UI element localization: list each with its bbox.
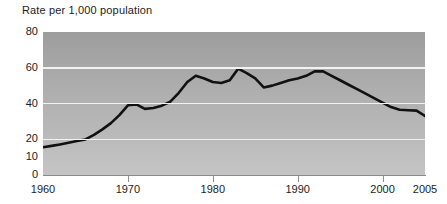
x-tick-2000 [383,176,384,182]
y-axis-labels: 80604020100 [0,0,38,204]
y-tick-label-80: 80 [26,25,38,37]
y-tick-label-20: 20 [26,132,38,144]
x-tick-label-1980: 1980 [201,183,225,195]
chart-title: Rate per 1,000 population [22,4,152,16]
gridline-20 [43,139,425,141]
x-axis-line [43,175,426,176]
gridline-40 [43,103,425,105]
y-tick-label-10: 10 [26,150,38,162]
chart-container: Rate per 1,000 population 80604020100 19… [0,0,447,204]
plot-area [43,32,425,175]
x-tick-label-2005: 2005 [413,183,437,195]
x-tick-1970 [128,176,129,182]
x-tick-label-1990: 1990 [285,183,309,195]
gridline-60 [43,67,425,69]
data-series-line [43,69,425,148]
y-tick-label-60: 60 [26,61,38,73]
x-tick-label-1970: 1970 [116,183,140,195]
x-tick-label-2000: 2000 [370,183,394,195]
x-tick-1990 [298,176,299,182]
x-tick-label-1960: 1960 [31,183,55,195]
y-tick-label-0: 0 [32,168,38,180]
x-tick-1980 [213,176,214,182]
y-tick-label-40: 40 [26,97,38,109]
